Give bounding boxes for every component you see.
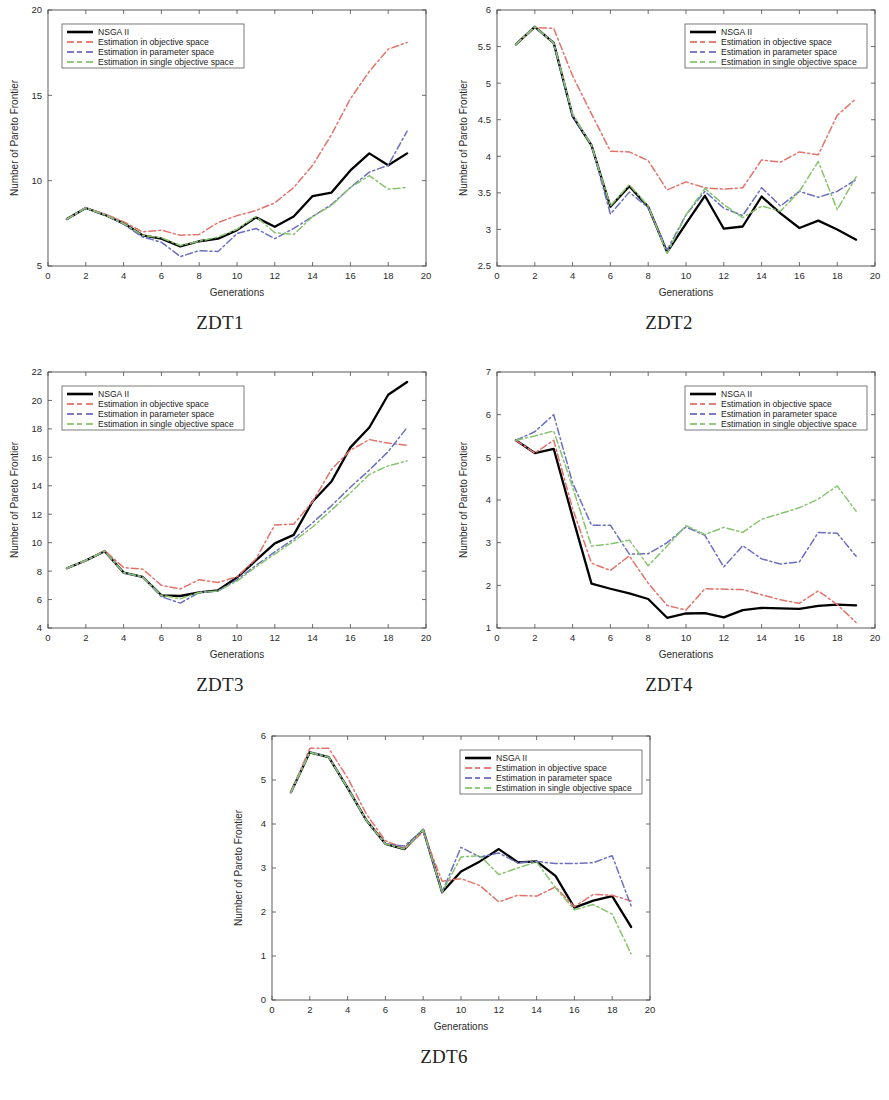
legend-label-1: Estimation in objective space [721,37,832,47]
panel-caption-zdt4: ZDT4 [449,674,889,696]
chart-svg-zdt2: 024681012141618202.533.544.555.56Generat… [449,0,889,310]
y-tick-label: 20 [31,395,42,406]
y-tick-label: 10 [31,175,42,186]
y-tick-label: 2 [486,580,491,591]
x-tick-label: 2 [307,1004,312,1015]
x-axis-label: Generations [659,649,713,660]
legend-label-1: Estimation in objective space [496,763,607,773]
x-tick-label: 16 [345,632,356,643]
x-axis-label: Generations [210,287,264,298]
x-tick-label: 10 [232,632,243,643]
x-tick-label: 6 [383,1004,388,1015]
plot-zdt1: 024681012141618205101520GenerationsNumbe… [0,0,440,310]
x-tick-label: 10 [681,632,692,643]
series-line-1 [67,42,407,235]
x-tick-label: 18 [383,632,394,643]
y-tick-label: 8 [37,566,42,577]
x-tick-label: 18 [383,270,394,281]
x-tick-label: 8 [197,632,202,643]
panel-caption-zdt3: ZDT3 [0,674,440,696]
x-tick-label: 2 [532,270,537,281]
chart-svg-zdt3: 0246810121416182046810121416182022Genera… [0,362,440,672]
x-tick-label: 16 [794,270,805,281]
y-tick-label: 6 [37,594,42,605]
x-tick-label: 18 [832,632,843,643]
x-tick-label: 14 [756,632,767,643]
legend-label-2: Estimation in parameter space [496,773,612,783]
figure-page: 024681012141618205101520GenerationsNumbe… [0,0,889,1100]
x-tick-label: 6 [608,632,613,643]
y-tick-label: 6 [486,4,491,15]
y-tick-label: 4 [486,151,491,162]
y-tick-label: 3.5 [478,187,491,198]
y-axis-label: Number of Pareto Frontier [233,809,244,926]
x-tick-label: 16 [794,632,805,643]
x-tick-label: 8 [197,270,202,281]
x-tick-label: 4 [121,632,126,643]
legend-label-1: Estimation in objective space [98,37,209,47]
x-tick-label: 20 [421,270,432,281]
plot-zdt3: 0246810121416182046810121416182022Genera… [0,362,440,672]
y-tick-label: 15 [31,90,42,101]
legend-label-3: Estimation in single objective space [721,57,857,67]
legend-label-3: Estimation in single objective space [98,419,234,429]
y-tick-label: 7 [486,366,491,377]
y-tick-label: 1 [486,622,491,633]
y-tick-label: 16 [31,452,42,463]
x-tick-label: 8 [646,632,651,643]
legend-label-2: Estimation in parameter space [98,409,214,419]
y-tick-label: 5 [486,452,491,463]
x-tick-label: 12 [270,270,281,281]
y-tick-label: 4 [37,622,42,633]
y-tick-label: 4.5 [478,114,491,125]
panel-zdt3: 0246810121416182046810121416182022Genera… [0,362,440,696]
x-tick-label: 0 [269,1004,274,1015]
x-tick-label: 4 [570,632,575,643]
y-tick-label: 10 [31,537,42,548]
series-line-0 [516,440,856,617]
y-tick-label: 1 [261,950,266,961]
y-tick-label: 6 [261,730,266,741]
x-tick-label: 14 [756,270,767,281]
series-line-2 [67,131,407,256]
plot-zdt2: 024681012141618202.533.544.555.56Generat… [449,0,889,310]
series-line-0 [67,153,407,246]
x-tick-label: 0 [494,632,499,643]
chart-body-zdt1: 024681012141618205101520GenerationsNumbe… [9,4,431,298]
chart-body-zdt6: 024681012141618200123456GenerationsNumbe… [233,730,655,1032]
chart-svg-zdt1: 024681012141618205101520GenerationsNumbe… [0,0,440,310]
y-tick-label: 3 [486,224,491,235]
y-tick-label: 3 [261,862,266,873]
y-axis-label: Number of Pareto Frontier [9,441,20,558]
y-tick-label: 2.5 [478,260,491,271]
plot-zdt4: 024681012141618201234567GenerationsNumbe… [449,362,889,672]
x-axis-label: Generations [210,649,264,660]
y-tick-label: 5.5 [478,41,491,52]
x-tick-label: 18 [832,270,843,281]
x-tick-label: 0 [45,632,50,643]
x-tick-label: 12 [494,1004,505,1015]
y-tick-label: 5 [486,78,491,89]
x-tick-label: 20 [870,632,881,643]
x-tick-label: 12 [719,632,730,643]
chart-svg-zdt4: 024681012141618201234567GenerationsNumbe… [449,362,889,672]
x-tick-label: 10 [456,1004,467,1015]
x-tick-label: 10 [681,270,692,281]
panel-zdt1: 024681012141618205101520GenerationsNumbe… [0,0,440,334]
legend: NSGA IIEstimation in objective spaceEsti… [62,24,244,68]
x-tick-label: 8 [646,270,651,281]
panel-zdt6: 024681012141618200123456GenerationsNumbe… [224,726,664,1068]
x-tick-label: 16 [345,270,356,281]
x-tick-label: 10 [232,270,243,281]
legend-label-0: NSGA II [496,753,527,763]
y-tick-label: 5 [37,260,42,271]
panel-caption-zdt2: ZDT2 [449,312,889,334]
x-tick-label: 18 [607,1004,618,1015]
legend-label-1: Estimation in objective space [98,399,209,409]
legend: NSGA IIEstimation in objective spaceEsti… [685,386,867,430]
x-tick-label: 2 [532,632,537,643]
chart-body-zdt3: 0246810121416182046810121416182022Genera… [9,366,431,660]
y-tick-label: 2 [261,906,266,917]
y-tick-label: 18 [31,423,42,434]
legend: NSGA IIEstimation in objective spaceEsti… [62,386,244,430]
